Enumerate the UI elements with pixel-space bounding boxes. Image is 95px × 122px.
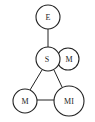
diagram-canvas: E M S M MI [0,0,95,122]
node-s-label: S [45,55,49,64]
node-s: S [36,47,60,71]
node-m-left-label: M [21,97,28,106]
edge-s-m [30,70,42,90]
node-e-label: E [46,13,51,22]
edge-s-mi [54,70,62,87]
node-m-left: M [13,89,37,113]
node-mi-label: MI [64,97,74,106]
node-m-right-label: M [65,55,72,64]
node-e: E [36,5,60,29]
node-mi: MI [54,86,84,116]
